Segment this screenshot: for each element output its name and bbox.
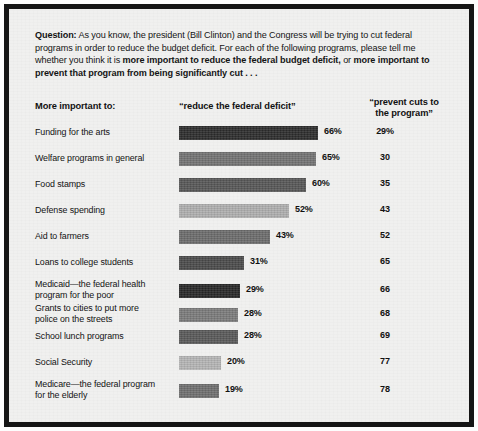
right-column-value: 69 [361,330,409,340]
bar [179,308,238,322]
chart-frame: Question: As you know, the president (Bi… [4,4,474,427]
question-label: Question: [35,30,77,40]
row-label: Food stamps [35,179,175,190]
row-label: Medicare—the federal programfor the elde… [35,379,175,400]
bar [179,330,238,344]
row-label: Social Security [35,357,175,368]
bar-wrapper [179,330,238,344]
table-row: Social Security20%77 [9,353,469,379]
bar-wrapper [179,230,270,244]
row-label-line2: for the elderly [35,390,175,401]
row-label-line1: School lunch programs [35,331,175,342]
row-label: Loans to college students [35,257,175,268]
bar [179,284,240,298]
right-column-value: 77 [361,356,409,366]
question-bold1: more important to reduce the federal bud… [123,55,341,65]
row-label-line1: Welfare programs in general [35,153,175,164]
row-label-line1: Medicare—the federal program [35,379,175,390]
survey-chart-page: Question: As you know, the president (Bi… [0,0,478,431]
chart-canvas: Question: As you know, the president (Bi… [9,9,469,422]
bar-wrapper [179,256,244,270]
row-label-line1: Social Security [35,357,175,368]
table-row: Funding for the arts66%29% [9,123,469,149]
row-label: Medicaid—the federal healthprogram for t… [35,279,175,300]
bar [179,256,244,270]
bar-wrapper [179,126,318,140]
bar-wrapper [179,284,240,298]
table-row: Welfare programs in general65%30 [9,149,469,175]
row-label-line1: Defense spending [35,205,175,216]
right-column-value: 66 [361,284,409,294]
bar-value-label: 28% [244,308,262,318]
bar-value-label: 43% [276,230,294,240]
bar [179,126,318,140]
right-column-value: 78 [361,384,409,394]
row-label-line1: Funding for the arts [35,127,175,138]
bar-wrapper [179,152,316,166]
right-column-value: 35 [361,178,409,188]
bar [179,384,219,398]
table-row: Medicare—the federal programfor the elde… [9,379,469,403]
right-column-value: 30 [361,152,409,162]
question-text: Question: As you know, the president (Bi… [35,29,449,79]
row-label: Grants to cities to put morepolice on th… [35,303,175,324]
bar-value-label: 52% [295,204,313,214]
right-column-value: 29% [361,126,409,136]
question-mid: or [341,55,354,65]
bar [179,230,270,244]
row-label: Funding for the arts [35,127,175,138]
table-row: Food stamps60%35 [9,175,469,201]
bar [179,178,306,192]
table-row: Defense spending52%43 [9,201,469,227]
header-right: “prevent cuts to the program” [361,97,447,120]
header-middle: “reduce the federal deficit” [179,101,296,111]
bar-value-label: 66% [324,126,342,136]
right-column-value: 65 [361,256,409,266]
right-column-value: 52 [361,230,409,240]
row-label: Welfare programs in general [35,153,175,164]
bar-wrapper [179,178,306,192]
header-right-line2: the program” [361,108,447,119]
bar-wrapper [179,308,238,322]
table-row: Medicaid—the federal healthprogram for t… [9,279,469,303]
row-label: Aid to farmers [35,231,175,242]
chart-rows: Funding for the arts66%29%Welfare progra… [9,123,469,403]
header-left: More important to: [35,101,115,111]
bar [179,204,289,218]
row-label-line2: program for the poor [35,290,175,301]
right-column-value: 43 [361,204,409,214]
table-row: Grants to cities to put morepolice on th… [9,303,469,327]
row-label-line1: Loans to college students [35,257,175,268]
row-label-line1: Aid to farmers [35,231,175,242]
header-right-line1: “prevent cuts to [361,97,447,108]
bar [179,356,221,370]
row-label-line1: Medicaid—the federal health [35,279,175,290]
bar-wrapper [179,356,221,370]
right-column-value: 68 [361,308,409,318]
table-row: Aid to farmers43%52 [9,227,469,253]
bar [179,152,316,166]
bar-value-label: 29% [246,284,264,294]
row-label-line2: police on the streets [35,314,175,325]
bar-wrapper [179,204,289,218]
row-label-line1: Food stamps [35,179,175,190]
bar-value-label: 31% [250,256,268,266]
bar-value-label: 65% [322,152,340,162]
table-row: School lunch programs28%69 [9,327,469,353]
row-label-line1: Grants to cities to put more [35,303,175,314]
bar-value-label: 60% [312,178,330,188]
bar-value-label: 20% [227,356,245,366]
bar-value-label: 28% [244,330,262,340]
row-label: Defense spending [35,205,175,216]
bar-value-label: 19% [225,384,243,394]
row-label: School lunch programs [35,331,175,342]
bar-wrapper [179,384,219,398]
table-row: Loans to college students31%65 [9,253,469,279]
